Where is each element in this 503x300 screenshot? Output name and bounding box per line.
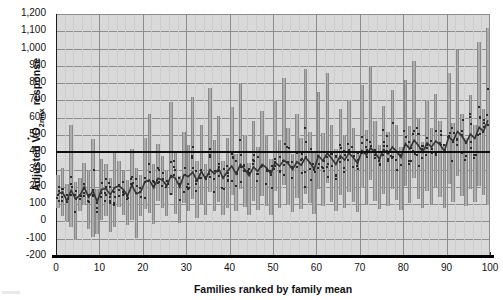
family-range-bar xyxy=(126,180,129,225)
family-range-bar xyxy=(152,164,155,224)
subject-data-point xyxy=(274,161,276,163)
subject-data-point xyxy=(184,167,186,169)
subject-data-point xyxy=(353,155,355,157)
subject-data-point xyxy=(192,146,194,148)
family-range-bar xyxy=(282,78,285,185)
subject-data-point xyxy=(109,186,111,188)
subject-data-point xyxy=(231,153,233,155)
subject-data-point xyxy=(135,178,137,180)
subject-data-point xyxy=(96,202,98,204)
subject-data-point xyxy=(412,133,414,135)
subject-data-point xyxy=(113,204,115,206)
family-range-bar xyxy=(447,73,450,184)
family-range-bar xyxy=(312,152,315,213)
subject-data-point xyxy=(386,145,388,147)
subject-data-point xyxy=(462,119,464,121)
subject-data-point xyxy=(309,162,311,164)
subject-data-point xyxy=(232,157,234,159)
subject-data-point xyxy=(253,154,255,156)
subject-data-point xyxy=(343,171,345,173)
subject-data-point xyxy=(187,183,189,185)
subject-data-point xyxy=(291,177,293,179)
scan-artifact xyxy=(2,291,20,294)
subject-data-point xyxy=(192,167,194,169)
subject-data-point xyxy=(370,145,372,147)
subject-data-point xyxy=(418,133,420,135)
gridline-vertical xyxy=(247,14,248,256)
subject-data-point xyxy=(416,154,418,156)
subject-data-point xyxy=(83,188,85,190)
x-axis-tick-label: 20 xyxy=(123,262,163,273)
subject-data-point xyxy=(113,202,115,204)
subject-data-point xyxy=(75,198,77,200)
subject-data-point xyxy=(327,176,329,178)
subject-data-point xyxy=(473,157,475,159)
subject-data-point xyxy=(239,139,241,141)
subject-data-point xyxy=(382,129,384,131)
subject-data-point xyxy=(461,134,463,136)
subject-data-point xyxy=(408,141,410,143)
subject-data-point xyxy=(383,141,385,143)
subject-data-point xyxy=(140,196,142,198)
subject-data-point xyxy=(304,171,306,173)
family-range-bar xyxy=(486,28,489,205)
subject-data-point xyxy=(312,163,314,165)
gridline-vertical xyxy=(143,14,144,256)
subject-data-point xyxy=(158,169,160,171)
subject-data-point xyxy=(161,185,163,187)
subject-data-point xyxy=(105,194,107,196)
subject-data-point xyxy=(114,196,116,198)
subject-data-point xyxy=(257,156,259,158)
family-range-bar xyxy=(169,102,172,195)
subject-data-point xyxy=(391,157,393,159)
subject-data-point xyxy=(451,127,453,129)
subject-data-point xyxy=(327,163,329,165)
subject-data-point xyxy=(323,170,325,172)
family-range-bar xyxy=(438,121,441,197)
subject-data-point xyxy=(170,175,172,177)
family-range-bar xyxy=(260,111,263,197)
subject-data-point xyxy=(483,122,485,124)
family-range-bar xyxy=(352,128,355,201)
subject-data-point xyxy=(261,165,263,167)
x-axis-tick-label: 30 xyxy=(166,262,206,273)
subject-data-point xyxy=(183,191,185,193)
family-range-bar xyxy=(113,152,116,227)
x-axis-tick-label: 10 xyxy=(79,262,119,273)
subject-data-point xyxy=(113,191,115,193)
family-range-bar xyxy=(273,100,276,191)
subject-data-point xyxy=(430,140,432,142)
subject-data-point xyxy=(365,146,367,148)
subject-data-point xyxy=(335,178,337,180)
subject-data-point xyxy=(58,186,60,188)
subject-data-point xyxy=(170,161,172,163)
subject-data-point xyxy=(200,177,202,179)
subject-data-point xyxy=(205,178,207,180)
subject-data-point xyxy=(435,130,437,132)
subject-data-point xyxy=(305,156,307,158)
subject-data-point xyxy=(396,169,398,171)
gridline-vertical xyxy=(117,14,118,256)
subject-data-point xyxy=(75,190,77,192)
subject-data-point xyxy=(152,185,154,187)
subject-data-point xyxy=(326,166,328,168)
gridline-vertical xyxy=(99,14,100,256)
subject-data-point xyxy=(351,146,353,148)
subject-data-point xyxy=(149,171,151,173)
subject-data-point xyxy=(387,160,389,162)
subject-data-point xyxy=(61,192,63,194)
subject-data-point xyxy=(248,172,250,174)
subject-data-point xyxy=(448,135,450,137)
subject-data-point xyxy=(162,178,164,180)
subject-data-point xyxy=(339,157,341,159)
subject-data-point xyxy=(221,187,223,189)
subject-data-point xyxy=(478,106,480,108)
family-range-bar xyxy=(104,164,107,216)
subject-data-point xyxy=(179,199,181,201)
subject-data-point xyxy=(257,173,259,175)
subject-data-point xyxy=(93,169,95,171)
subject-data-point xyxy=(213,178,215,180)
subject-data-point xyxy=(313,169,315,171)
subject-data-point xyxy=(108,182,110,184)
subject-data-point xyxy=(323,160,325,162)
